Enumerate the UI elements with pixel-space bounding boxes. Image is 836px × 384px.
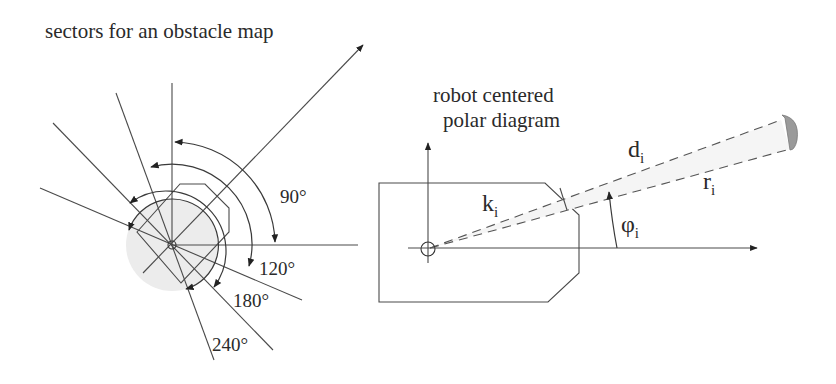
- label-180: 180°: [233, 290, 269, 311]
- label-k: ki: [482, 190, 498, 220]
- label-phi: φi: [621, 211, 639, 241]
- label-r: ri: [703, 168, 715, 198]
- robot-outline: [379, 183, 579, 302]
- label-d: di: [628, 136, 644, 166]
- label-240: 240°: [212, 334, 248, 355]
- label-120: 120°: [259, 258, 295, 279]
- right-panel-title-line1: robot centered: [433, 83, 554, 107]
- diagram-canvas: sectors for an obstacle map 90° 120° 180…: [0, 0, 836, 384]
- heading-arrow: [143, 45, 363, 273]
- obstacle-map-sectors-figure: sectors for an obstacle map 90° 120° 180…: [40, 19, 363, 360]
- polar-diagram-figure: robot centered polar diagram di ri ki φi: [379, 83, 797, 302]
- sector-line-135: [53, 123, 273, 350]
- angle-arc-phi: [609, 192, 617, 248]
- label-90: 90°: [280, 186, 307, 207]
- right-panel-title-line2: polar diagram: [443, 108, 560, 132]
- beam-cone-fill: [430, 120, 790, 248]
- left-panel-title: sectors for an obstacle map: [45, 19, 274, 43]
